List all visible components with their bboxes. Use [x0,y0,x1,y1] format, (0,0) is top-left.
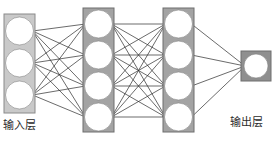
hidden-layer-2-node-3 [165,72,193,100]
input-layer-label: 输入层 [3,120,36,132]
output-layer-label: 输出层 [230,117,263,129]
hidden-layer-1-node-2 [85,41,113,69]
connection-edge [192,24,246,66]
connection-edge [33,86,86,95]
hidden-layer-2-node-2 [165,41,193,69]
connection-edge [33,95,86,117]
hidden-layer-2-node-4 [165,103,193,131]
input-layer-node-1 [6,17,34,45]
neural-network-diagram: 输入层 输出层 [0,0,276,142]
edges-group [33,24,246,117]
hidden-layer-1-node-4 [85,103,113,131]
hidden-layer-2-node-1 [165,10,193,38]
nodes-group [6,10,269,131]
input-layer-node-3 [6,81,34,109]
connection-edge [33,55,86,95]
hidden-layer-1-node-1 [85,10,113,38]
connection-edge [33,63,86,117]
connection-edge [192,55,246,66]
connection-edge [192,66,246,86]
output-layer-node-1 [244,54,268,78]
hidden-layer-1-node-3 [85,72,113,100]
connection-edge [33,31,86,86]
input-layer-node-2 [6,49,34,77]
connection-edge [33,63,86,86]
connection-edge [192,66,246,117]
